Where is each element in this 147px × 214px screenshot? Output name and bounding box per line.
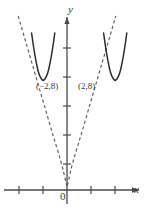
origin-label: 0 xyxy=(60,191,66,202)
parabola-graph-figure: x y 0 (−2,8) (2,8) xyxy=(0,0,147,214)
solid-parabola-right xyxy=(104,33,127,81)
left-vertex-point-label: (−2,8) xyxy=(36,82,58,91)
right-vertex-point-label: (2,8) xyxy=(78,82,95,91)
plot-canvas xyxy=(0,0,147,214)
x-axis-label: x xyxy=(134,184,139,195)
y-axis-arrowhead xyxy=(64,17,69,24)
y-axis-label: y xyxy=(68,4,73,15)
